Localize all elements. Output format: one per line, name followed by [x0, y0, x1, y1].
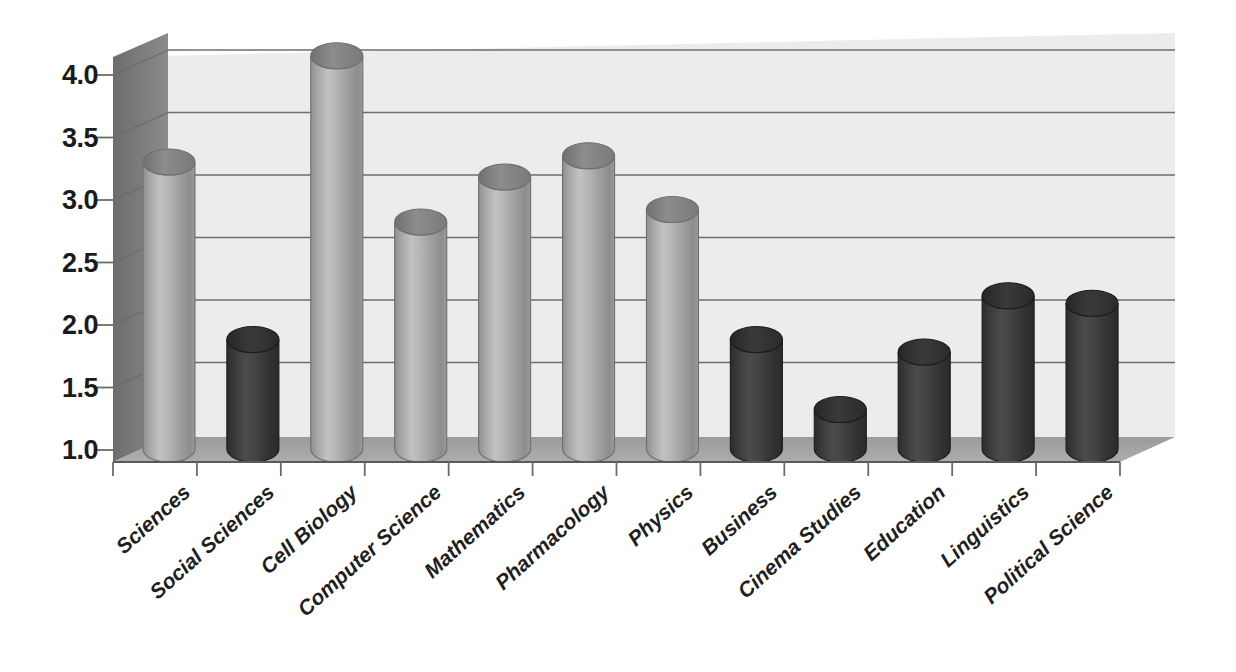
bar-body	[227, 340, 279, 463]
bar-top-cap	[730, 327, 782, 353]
bar-body	[143, 162, 195, 462]
bar-body	[563, 156, 615, 462]
bar-top-cap	[814, 397, 866, 423]
y-tick-label-1.5: 1.5	[20, 374, 98, 401]
bar-body	[646, 210, 698, 462]
y-tick-label-3.5: 3.5	[20, 124, 98, 151]
bar-cinema-studies	[814, 397, 866, 463]
y-tick-label-1.0: 1.0	[20, 437, 98, 464]
bar-top-cap	[563, 143, 615, 169]
bar-top-cap	[479, 164, 531, 190]
bar-social-sciences	[227, 327, 279, 463]
bar-body	[479, 177, 531, 462]
bar-linguistics	[982, 283, 1034, 462]
bar-body	[311, 56, 363, 462]
bar-top-cap	[311, 43, 363, 69]
bar-computer-science	[395, 209, 447, 462]
bar-business	[730, 327, 782, 462]
bar-top-cap	[646, 197, 698, 223]
bar-top-cap	[395, 209, 447, 235]
y-tick-label-4.0: 4.0	[20, 62, 98, 89]
bar-physics	[646, 197, 698, 462]
bar-top-cap	[898, 339, 950, 365]
bar-education	[898, 339, 950, 462]
bar-body	[395, 222, 447, 462]
bar-chart: 4.03.53.02.52.01.51.0 SciencesSocial Sci…	[0, 0, 1236, 672]
axis-ticks	[97, 75, 113, 450]
bar-body	[898, 352, 950, 462]
y-tick-label-3.0: 3.0	[20, 187, 98, 214]
bar-cell-biology	[311, 43, 363, 462]
bar-mathematics	[479, 164, 531, 462]
bar-top-cap	[1066, 290, 1118, 316]
y-tick-label-2.0: 2.0	[20, 312, 98, 339]
bar-top-cap	[982, 283, 1034, 309]
bar-pharmacology	[563, 143, 615, 462]
bar-top-cap	[227, 327, 279, 353]
bar-political-science	[1066, 290, 1118, 462]
bar-body	[1066, 303, 1118, 462]
bar-body	[730, 340, 782, 462]
bar-body	[982, 296, 1034, 462]
x-axis-ticks	[113, 462, 1120, 476]
bar-top-cap	[143, 149, 195, 175]
bar-sciences	[143, 149, 195, 462]
y-tick-label-2.5: 2.5	[20, 249, 98, 276]
